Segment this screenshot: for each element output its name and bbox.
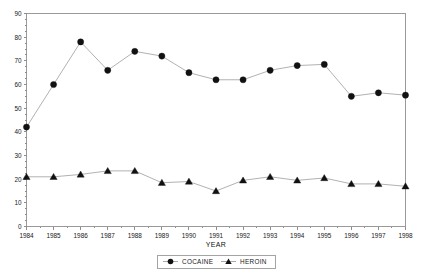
x-axis-tick-labels: 1984198519861987198819891990199119921993… [19,232,413,239]
data-point-marker [321,61,327,67]
line-chart: 0102030405060708090 19841985198619871988… [0,0,425,275]
y-tick-label: 60 [14,81,22,88]
x-tick-label: 1993 [263,232,278,239]
series-cocaine [23,39,408,130]
data-point-marker [212,188,219,194]
y-tick-label: 80 [14,34,22,41]
x-tick-label: 1995 [317,232,332,239]
x-tick-label: 1997 [371,232,386,239]
data-point-marker [375,90,381,96]
chart-canvas: 0102030405060708090 19841985198619871988… [0,0,425,275]
x-tick-label: 1986 [74,232,89,239]
data-point-marker [348,93,354,99]
y-tick-label: 0 [18,223,22,230]
data-point-marker [213,77,219,83]
data-point-marker [294,62,300,68]
x-tick-label: 1998 [398,232,413,239]
data-point-marker [185,178,192,184]
series-line [27,42,406,127]
x-tick-label: 1987 [101,232,116,239]
y-tick-label: 50 [14,105,22,112]
x-tick-label: 1996 [344,232,359,239]
data-point-marker [321,175,328,181]
y-tick-label: 20 [14,176,22,183]
x-tick-label: 1991 [209,232,224,239]
data-point-marker [105,67,111,73]
y-tick-label: 40 [14,128,22,135]
y-tick-label: 10 [14,199,22,206]
x-tick-label: 1988 [128,232,143,239]
y-tick-label: 70 [14,57,22,64]
data-point-marker [267,173,274,179]
data-point-marker [159,53,165,59]
x-tick-label: 1994 [290,232,305,239]
legend-marker [168,259,174,265]
plot-frame [27,14,406,227]
x-tick-label: 1989 [155,232,170,239]
y-tick-label: 90 [14,10,22,17]
legend-label: COCAINE [182,258,213,265]
x-tick-label: 1985 [46,232,61,239]
data-point-marker [267,67,273,73]
chart-legend: COCAINEHEROIN [157,255,275,268]
x-axis-title: YEAR [206,241,227,248]
y-axis-tick-labels: 0102030405060708090 [14,10,22,230]
y-tick-label: 30 [14,152,22,159]
data-point-marker [186,70,192,76]
data-point-marker [240,77,246,83]
series-heroin [23,167,409,193]
data-series-layer [23,39,409,194]
data-point-marker [132,48,138,54]
legend-label: HEROIN [240,258,267,265]
x-tick-label: 1984 [19,232,34,239]
data-point-marker [78,39,84,45]
x-tick-label: 1990 [182,232,197,239]
x-tick-label: 1992 [236,232,251,239]
data-point-marker [402,92,408,98]
data-point-marker [23,124,29,130]
data-point-marker [50,81,56,87]
